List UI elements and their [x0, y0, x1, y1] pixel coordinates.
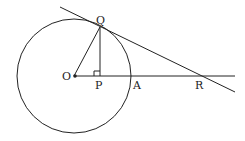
label-p: P	[95, 79, 103, 92]
right-angle-mark	[94, 71, 100, 76]
label-q: Q	[96, 14, 105, 27]
tangent-line-qr	[60, 7, 235, 92]
geometry-diagram: O Q P A R	[0, 0, 245, 141]
label-a: A	[132, 79, 142, 92]
center-point-o	[73, 74, 77, 78]
label-o: O	[62, 70, 71, 83]
radius-oq	[74, 27, 100, 76]
label-r: R	[195, 79, 204, 92]
